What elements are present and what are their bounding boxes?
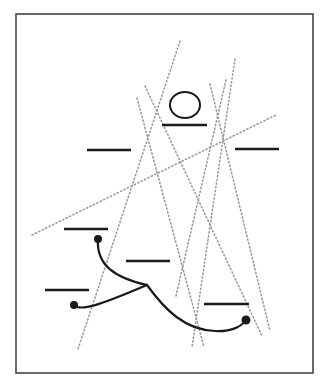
dotted-line: [176, 80, 226, 296]
endpoint-dots-group: [70, 235, 251, 325]
dotted-line: [137, 98, 204, 347]
curve-path: [147, 285, 246, 331]
endpoint-dot: [242, 316, 251, 325]
endpoint-dot: [70, 301, 78, 309]
dotted-line: [78, 41, 180, 349]
curve-path: [74, 285, 147, 308]
horizontal-bars-group: [45, 125, 279, 304]
diagram-canvas: [0, 0, 322, 378]
curves-group: [74, 239, 246, 331]
dotted-line: [145, 86, 262, 336]
diagram-frame: [16, 14, 313, 373]
dotted-line: [210, 84, 270, 331]
dotted-line: [32, 115, 276, 235]
ellipse-shape: [170, 92, 200, 118]
endpoint-dot: [94, 235, 102, 243]
